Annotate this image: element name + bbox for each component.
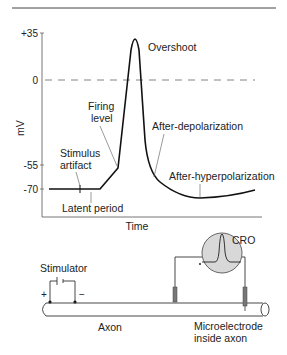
label-stimulus-artifact-1: Stimulus bbox=[60, 147, 100, 159]
stimulator-battery-icon bbox=[50, 277, 75, 302]
label-after-hyperpolarization: After-hyperpolarization bbox=[169, 170, 275, 182]
cro-lead-reference bbox=[175, 257, 202, 300]
reference-electrode bbox=[173, 287, 177, 302]
leader-after-depolarization bbox=[154, 134, 164, 177]
label-minus: − bbox=[79, 289, 85, 300]
tick-label-minus55: -55 bbox=[24, 160, 39, 171]
label-after-depolarization: After-depolarization bbox=[152, 120, 243, 132]
label-stimulus-artifact-2: artifact bbox=[60, 159, 92, 171]
microelectrode bbox=[243, 287, 247, 306]
cro-lead-microelectrode bbox=[242, 257, 245, 288]
leader-stimulus-artifact bbox=[76, 172, 80, 186]
tick-label-plus35: +35 bbox=[21, 28, 38, 39]
tick-label-minus70: -70 bbox=[24, 184, 39, 195]
y-axis-label: mV bbox=[14, 120, 26, 136]
label-microelectrode-1: Microelectrode bbox=[194, 320, 263, 332]
axon-cylinder bbox=[43, 303, 270, 316]
label-axon: Axon bbox=[98, 321, 122, 333]
label-latent-period: Latent period bbox=[62, 202, 123, 214]
label-stimulator: Stimulator bbox=[40, 262, 88, 274]
label-firing-level-2: level bbox=[91, 112, 113, 124]
label-firing-level-1: Firing bbox=[88, 100, 114, 112]
label-plus: + bbox=[41, 289, 47, 300]
action-potential-graph: +35 0 -55 -70 mV Time Overshoot Firing l… bbox=[14, 28, 275, 232]
label-overshoot: Overshoot bbox=[148, 41, 197, 53]
x-axis-label: Time bbox=[126, 220, 149, 232]
label-cro: CRO bbox=[232, 234, 255, 246]
label-microelectrode-2: inside axon bbox=[194, 332, 247, 344]
tick-label-zero: 0 bbox=[32, 75, 38, 86]
action-potential-diagram: +35 0 -55 -70 mV Time Overshoot Firing l… bbox=[0, 0, 287, 355]
leader-firing-level bbox=[100, 126, 117, 166]
recording-apparatus: Stimulator + − Axon bbox=[40, 233, 269, 344]
